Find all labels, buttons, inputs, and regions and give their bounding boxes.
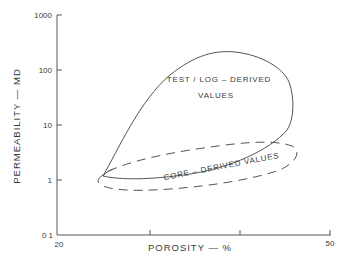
- chart-container: 1000 100 10 1 0 1 20 50 PERMEABILITY — M…: [0, 0, 347, 261]
- y-tick-label-10: 10: [43, 121, 52, 130]
- x-axis-title: POROSITY — %: [148, 242, 232, 253]
- permeability-porosity-chart: 1000 100 10 1 0 1 20 50 PERMEABILITY — M…: [0, 0, 347, 261]
- y-axis-title: PERMEABILITY — MD: [11, 68, 22, 184]
- y-tick-label-1: 1: [48, 176, 53, 185]
- core-derived-label: CORE – DERIVED VALUES: [163, 151, 280, 182]
- y-tick-label-1000: 1000: [34, 11, 52, 20]
- test-log-derived-label: TEST / LOG – DERIVED: [167, 75, 271, 84]
- x-tick-label-50: 50: [326, 239, 335, 248]
- test-log-values-label: VALUES: [198, 91, 234, 100]
- y-tick-label-0-1: 0 1: [42, 231, 54, 240]
- y-tick-label-100: 100: [39, 66, 53, 75]
- x-tick-label-20: 20: [55, 240, 64, 249]
